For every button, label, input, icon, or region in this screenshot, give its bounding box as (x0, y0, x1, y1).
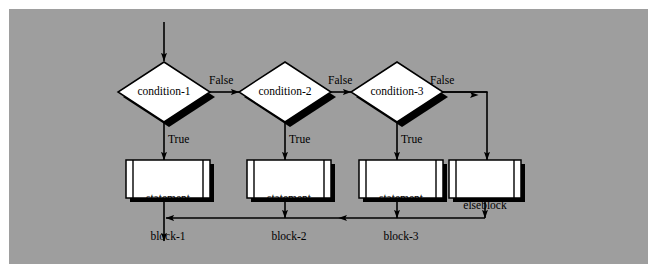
merge-join-bar (166, 215, 485, 221)
flowchart-canvas: condition-1 condition-2 condition-3 stat… (0, 0, 657, 273)
edge-label-true-1: True (168, 133, 189, 145)
decision-condition-2 (239, 62, 336, 127)
edge-label-false-2: False (328, 74, 352, 86)
decision-condition-1 (118, 62, 215, 127)
flowchart-graphics (0, 0, 657, 273)
edge-label-false-1: False (209, 74, 233, 86)
process-statement-block-2 (247, 160, 335, 202)
edge-label-true-2: True (289, 133, 310, 145)
process-statement-block-3 (359, 160, 447, 202)
edge-label-false-3: False (430, 74, 454, 86)
edge-label-true-3: True (401, 133, 422, 145)
process-elseblock (449, 160, 525, 202)
edge-false-3 (443, 92, 488, 160)
decision-condition-3 (351, 62, 448, 127)
process-statement-block-1 (126, 160, 214, 202)
